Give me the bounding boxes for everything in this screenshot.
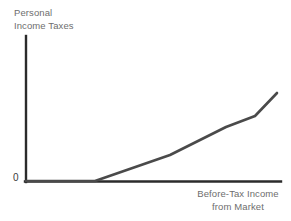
tax-schedule-curve: [26, 93, 277, 181]
y-axis-title-line2: Income Taxes: [14, 19, 74, 32]
x-axis-title-line1: Before-Tax Income: [186, 187, 290, 200]
x-axis-title-line2: from Market: [186, 200, 290, 213]
x-axis-title: Before-Tax Income from Market: [186, 187, 290, 213]
origin-tick-label: 0: [13, 172, 19, 184]
y-axis-title: Personal Income Taxes: [14, 6, 74, 32]
tax-curve-figure: Personal Income Taxes Before-Tax Income …: [0, 0, 291, 221]
y-axis-title-line1: Personal: [14, 6, 74, 19]
